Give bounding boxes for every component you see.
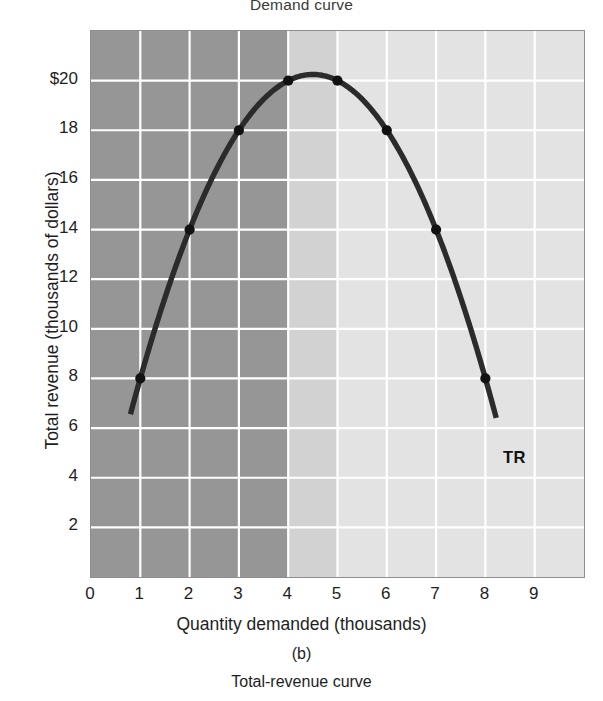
x-tick-label: 5: [317, 584, 357, 604]
y-tick-label: 2: [0, 515, 78, 535]
x-tick-label: 1: [119, 584, 159, 604]
total-revenue-figure: Demand curve 24681012141618$20 012345678…: [0, 0, 603, 701]
data-point-marker: [382, 125, 392, 135]
y-tick-label: 12: [0, 267, 78, 287]
y-tick-label: $20: [0, 69, 78, 89]
data-point-marker: [480, 373, 490, 383]
y-axis-title: Total revenue (thousands of dollars): [42, 31, 63, 591]
x-tick-label: 3: [218, 584, 258, 604]
data-point-marker: [332, 76, 342, 86]
plot-area: [90, 30, 585, 578]
data-point-marker: [185, 224, 195, 234]
data-point-marker: [431, 224, 441, 234]
data-point-marker: [135, 373, 145, 383]
y-tick-label: 16: [0, 168, 78, 188]
x-tick-label: 0: [70, 584, 110, 604]
y-tick-label: 18: [0, 118, 78, 138]
y-tick-label: 8: [0, 366, 78, 386]
chart-canvas: [91, 31, 584, 577]
tr-series-label: TR: [503, 448, 526, 467]
data-point-marker: [234, 125, 244, 135]
demand-curve-caption: Demand curve: [0, 0, 603, 14]
figure-caption: Total-revenue curve: [0, 673, 603, 691]
band-unit-elastic-region: [288, 31, 337, 577]
x-tick-label: 9: [514, 584, 554, 604]
x-tick-label: 4: [267, 584, 307, 604]
data-point-marker: [283, 76, 293, 86]
y-tick-label: 4: [0, 466, 78, 486]
y-tick-label: 10: [0, 317, 78, 337]
x-tick-label: 8: [464, 584, 504, 604]
panel-label: (b): [0, 645, 603, 663]
x-tick-label: 7: [415, 584, 455, 604]
x-tick-label: 6: [366, 584, 406, 604]
y-tick-label: 6: [0, 416, 78, 436]
x-tick-label: 2: [169, 584, 209, 604]
x-axis-title: Quantity demanded (thousands): [0, 614, 603, 635]
y-tick-label: 14: [0, 218, 78, 238]
